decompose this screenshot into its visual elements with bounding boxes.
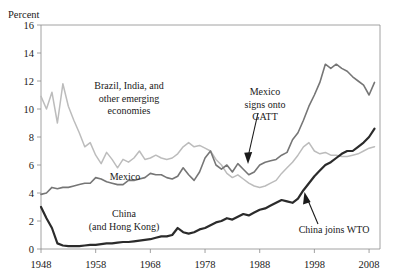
series-label-china-line: China xyxy=(112,208,136,219)
x-tick-label: 1968 xyxy=(140,259,161,270)
line-chart: 0246810121416194819581968197819881998200… xyxy=(0,0,397,278)
y-tick-label: 14 xyxy=(24,48,35,59)
series-label-emerging-line: economies xyxy=(108,105,151,116)
series-label-emerging: Brazil, India, andother emergingeconomie… xyxy=(94,80,163,116)
series-label-china: China(and Hong Kong) xyxy=(89,208,160,233)
y-tick-label: 8 xyxy=(29,132,34,143)
series-line-emerging xyxy=(41,84,375,188)
annotation-wto-label: China joins WTO xyxy=(299,224,370,235)
series-label-emerging-line: Brazil, India, and xyxy=(94,80,163,91)
y-tick-label: 10 xyxy=(24,104,35,115)
annotation-gatt-label-line: signs onto xyxy=(245,99,286,110)
x-axis-ticks: 1948195819681978198819982008 xyxy=(31,249,380,270)
annotation-gatt-label-line: Mexico xyxy=(250,86,281,97)
x-tick-label: 1948 xyxy=(31,259,52,270)
x-tick-label: 1988 xyxy=(249,259,270,270)
axis-frame xyxy=(41,25,380,249)
annotation-wto-arrow xyxy=(303,192,318,224)
series-label-mexico-line: Mexico xyxy=(110,171,141,182)
series-label-china-line: (and Hong Kong) xyxy=(89,221,160,233)
series-line-mexico xyxy=(41,64,375,194)
y-tick-label: 0 xyxy=(29,244,34,255)
y-tick-label: 6 xyxy=(29,160,34,171)
y-tick-label: 12 xyxy=(24,76,35,87)
annotation-gatt-label: Mexicosigns ontoGATT xyxy=(245,86,286,122)
series-label-emerging-line: other emerging xyxy=(99,93,160,104)
x-tick-label: 1958 xyxy=(85,259,106,270)
y-tick-label: 16 xyxy=(24,20,35,31)
y-axis-ticks: 0246810121416 xyxy=(24,20,42,255)
y-axis-title: Percent xyxy=(8,9,40,20)
y-tick-label: 4 xyxy=(29,188,35,199)
series-label-mexico: Mexico xyxy=(110,171,141,182)
chart-figure: 0246810121416194819581968197819881998200… xyxy=(0,0,397,278)
x-tick-label: 2008 xyxy=(359,259,380,270)
x-tick-label: 1978 xyxy=(195,259,216,270)
x-tick-label: 1998 xyxy=(304,259,325,270)
annotation-gatt-arrow xyxy=(244,113,258,164)
y-tick-label: 2 xyxy=(29,216,34,227)
annotation-wto-label-line: China joins WTO xyxy=(299,224,370,235)
